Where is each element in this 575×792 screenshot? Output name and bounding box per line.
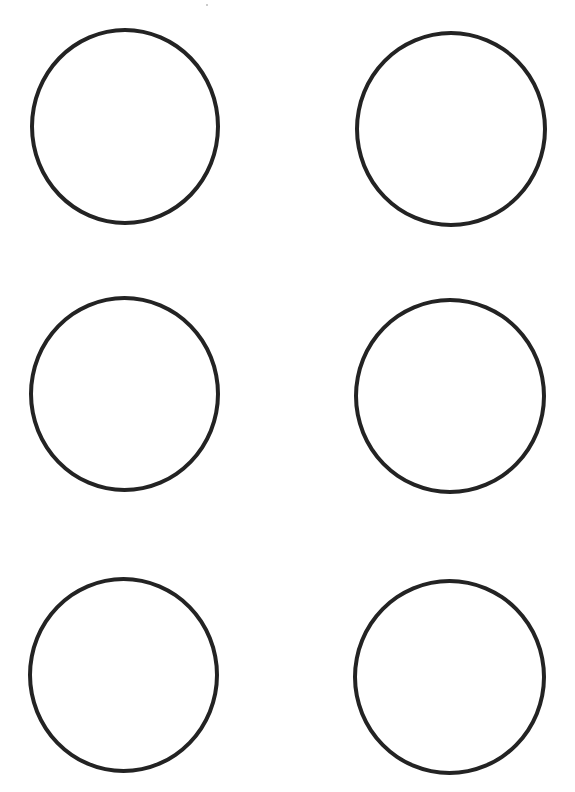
circle-outline-row2-col2 (354, 298, 546, 494)
circle-outline-row3-col1 (28, 577, 219, 773)
circle-outline-row3-col2 (353, 579, 546, 775)
paper-speck (206, 4, 208, 6)
circle-outline-row1-col1 (30, 28, 220, 225)
circle-outline-row2-col1 (29, 296, 220, 492)
template-sheet (0, 0, 575, 792)
circle-outline-row1-col2 (355, 31, 547, 227)
